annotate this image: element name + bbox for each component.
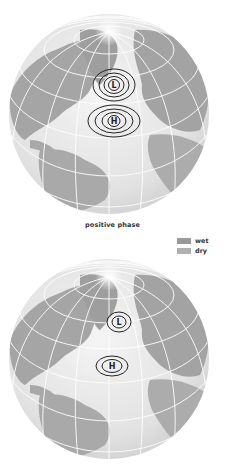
globe-positive-phase: L H — [0, 0, 225, 230]
low-label: L — [111, 81, 116, 90]
low-label: L — [116, 318, 121, 327]
globe-negative-phase: L H — [0, 245, 225, 469]
wet-swatch — [177, 238, 191, 244]
phase-label: positive phase — [0, 221, 225, 229]
high-label: H — [111, 117, 118, 126]
high-label: H — [109, 362, 116, 371]
legend-label-wet: wet — [195, 237, 209, 245]
